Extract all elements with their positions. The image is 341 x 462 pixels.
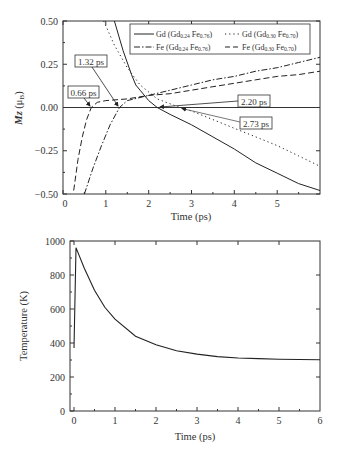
figure: 0.50 0.25 0.00 −0.25 −0.50 0 1 2 3 4 5 T… bbox=[0, 0, 341, 462]
bottom-x-tick-label: 5 bbox=[277, 415, 282, 426]
top-x-tick-label: 1 bbox=[103, 198, 108, 209]
annotation-2-73ps: 2.73 ps bbox=[182, 109, 272, 130]
bottom-plot: 0 200 400 600 800 1000 0 1 2 3 4 5 6 Tim… bbox=[18, 236, 323, 444]
bottom-y-tick-label: 1000 bbox=[45, 236, 65, 247]
bottom-x-axis-title: Time (ps) bbox=[175, 431, 216, 443]
bottom-y-tick-label: 800 bbox=[50, 270, 65, 281]
top-x-tick-label: 5 bbox=[275, 198, 280, 209]
bottom-y-tick-label: 600 bbox=[50, 304, 65, 315]
bottom-x-ticks bbox=[74, 241, 300, 411]
top-x-tick-label: 3 bbox=[189, 198, 194, 209]
top-y-tick-label: 0.00 bbox=[41, 102, 59, 113]
bottom-y-tick-label: 0 bbox=[60, 406, 65, 417]
annotation-0-66ps: 0.66 ps bbox=[68, 86, 99, 106]
bottom-y-axis-title: Temperature (K) bbox=[18, 290, 30, 361]
top-y-axis-title: Mz (μB) bbox=[13, 91, 26, 126]
legend: Gd (Gd0.24 Fe0.76) Gd (Gd0.30 Fe0.70) Fe… bbox=[130, 24, 310, 54]
top-plot: 0.50 0.25 0.00 −0.25 −0.50 0 1 2 3 4 5 T… bbox=[13, 16, 320, 224]
top-y-tick-label: −0.25 bbox=[35, 145, 58, 156]
bottom-x-tick-label: 0 bbox=[72, 415, 77, 426]
top-x-tick-label: 4 bbox=[232, 198, 237, 209]
series-fe-030 bbox=[74, 71, 320, 190]
bottom-y-tick-label: 200 bbox=[50, 372, 65, 383]
svg-text:0.66 ps: 0.66 ps bbox=[70, 88, 97, 98]
top-y-tick-label: 0.50 bbox=[41, 16, 59, 27]
top-x-tick-label: 2 bbox=[146, 198, 151, 209]
bottom-y-ticks bbox=[70, 241, 320, 411]
bottom-x-tick-label: 6 bbox=[318, 415, 323, 426]
annotation-2-20ps: 2.20 ps bbox=[160, 95, 270, 107]
bottom-y-tick-label: 400 bbox=[50, 338, 65, 349]
bottom-x-tick-label: 3 bbox=[195, 415, 200, 426]
top-y-tick-label: 0.25 bbox=[41, 59, 59, 70]
bottom-x-tick-label: 2 bbox=[154, 415, 159, 426]
series-fe-024 bbox=[84, 57, 320, 194]
svg-text:2.73 ps: 2.73 ps bbox=[243, 119, 270, 129]
top-x-tick-label: 0 bbox=[63, 198, 68, 209]
svg-text:1.32 ps: 1.32 ps bbox=[78, 57, 105, 67]
bottom-plot-frame bbox=[70, 241, 320, 411]
bottom-x-tick-label: 4 bbox=[236, 415, 241, 426]
top-y-tick-label: −0.50 bbox=[35, 189, 58, 200]
top-x-axis-title: Time (ps) bbox=[171, 211, 212, 223]
svg-text:2.20 ps: 2.20 ps bbox=[241, 97, 268, 107]
bottom-x-tick-label: 1 bbox=[113, 415, 118, 426]
series-temperature bbox=[74, 248, 320, 360]
